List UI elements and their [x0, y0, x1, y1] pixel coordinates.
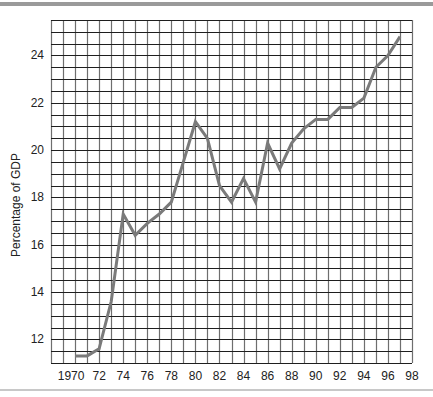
x-tick-label: 72 [92, 369, 106, 383]
x-tick-label: 96 [381, 369, 395, 383]
x-axis-ticks: 19707274767880828486889092949698 [58, 369, 419, 383]
x-tick-label: 92 [333, 369, 347, 383]
x-tick-label: 98 [405, 369, 419, 383]
y-tick-label: 12 [31, 332, 45, 346]
x-tick-label: 84 [237, 369, 251, 383]
x-tick-label: 94 [357, 369, 371, 383]
x-tick-label: 86 [261, 369, 275, 383]
x-tick-label: 1970 [58, 369, 85, 383]
chart-grid [51, 20, 413, 364]
line-chart: 12141618202224 1970727476788082848688909… [0, 0, 433, 397]
y-tick-label: 20 [31, 143, 45, 157]
x-tick-label: 78 [165, 369, 179, 383]
y-axis-label: Percentage of GDP [9, 153, 23, 257]
y-tick-label: 16 [31, 238, 45, 252]
y-axis-ticks: 12141618202224 [31, 48, 45, 346]
x-tick-label: 76 [141, 369, 155, 383]
y-tick-label: 22 [31, 96, 45, 110]
x-tick-label: 82 [213, 369, 227, 383]
x-tick-label: 88 [285, 369, 299, 383]
x-tick-label: 74 [117, 369, 131, 383]
y-tick-label: 24 [31, 48, 45, 62]
y-tick-label: 18 [31, 190, 45, 204]
x-tick-label: 80 [189, 369, 203, 383]
y-tick-label: 14 [31, 285, 45, 299]
x-tick-label: 90 [309, 369, 323, 383]
